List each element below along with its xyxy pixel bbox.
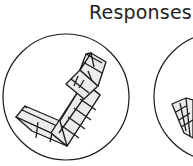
response-option-1[interactable] — [3, 34, 129, 160]
response-option-2[interactable] — [154, 33, 193, 161]
option-2-circle — [154, 33, 193, 161]
responses-diagram — [0, 0, 193, 166]
